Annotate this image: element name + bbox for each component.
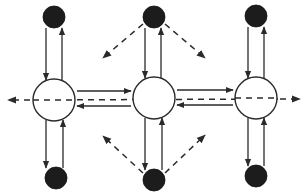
dark-node-top-center: [143, 6, 165, 28]
dashed-arrow-bottom-center-up-left: [103, 136, 143, 173]
dashed-arrow-top-center-down-right: [165, 24, 205, 58]
dark-node-bottom-left: [45, 167, 67, 189]
open-nodes: [33, 77, 277, 121]
network-diagram: [0, 0, 307, 194]
dark-node-bottom-center: [143, 169, 165, 191]
dashed-arrow-top-center-down-left: [103, 24, 143, 58]
dark-node-top-left: [43, 6, 65, 28]
dark-node-bottom-right: [245, 165, 267, 187]
hub-node-center: [133, 77, 175, 119]
dashed-arrow-bottom-center-up-right: [165, 135, 205, 173]
dark-node-top-right: [245, 5, 267, 27]
